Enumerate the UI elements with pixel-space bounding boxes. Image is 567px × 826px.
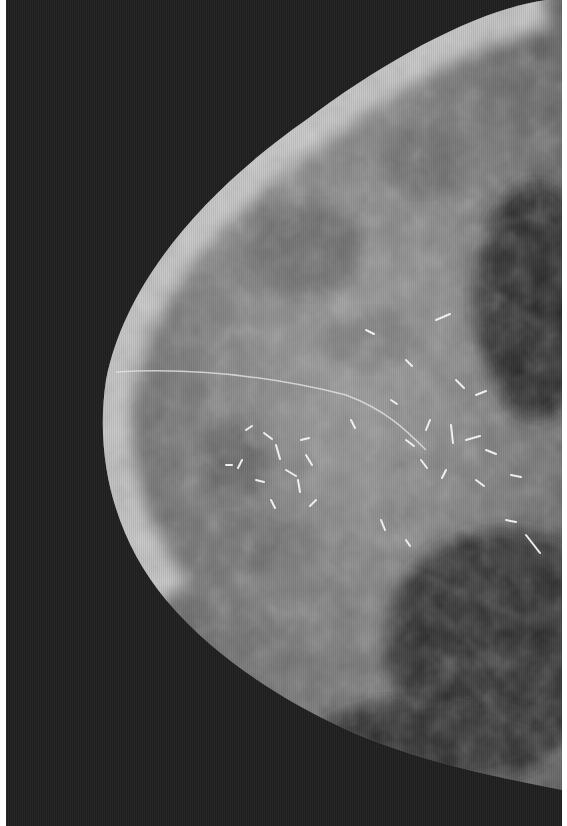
mammogram-image (6, 0, 562, 826)
breast-tissue (6, 0, 562, 826)
